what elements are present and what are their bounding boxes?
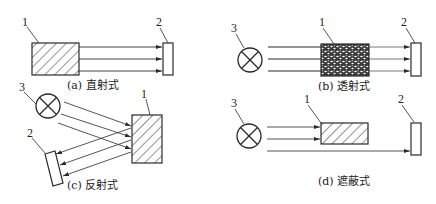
caption-b: (b) 透射式 [318,81,370,93]
label-a-object: 1 [22,16,28,28]
lamp-icon [36,94,60,118]
label-d-detector: 2 [398,93,404,105]
detector [45,151,63,186]
source-object-hatched [32,43,79,75]
caption-d: (d) 遮蔽式 [318,176,370,188]
reflector-hatched [132,115,162,163]
label-d-lamp: 3 [231,97,237,109]
label-b-medium: 1 [319,16,325,28]
label-c-lamp: 3 [19,81,25,93]
caption-c: (c) 反射式 [67,180,118,192]
obstacle-hatched [321,123,368,144]
lamp-icon [238,48,262,72]
detector [411,123,421,155]
caption-a: (a) 直射式 [67,80,119,92]
label-b-detector: 2 [401,16,407,28]
medium-speckled [321,44,369,76]
detector [411,43,421,76]
label-a-detector: 2 [156,16,162,28]
label-c-detector: 2 [27,127,33,139]
panel-b-transmission [236,28,421,76]
panel-c-reflection [24,92,162,186]
panel-a-direct [27,27,173,75]
detector [163,43,173,75]
diagram-canvas [0,0,436,204]
label-c-reflector: 1 [141,88,147,100]
label-d-obstacle: 1 [304,93,310,105]
lamp-icon [237,124,261,148]
panel-d-occlusion [235,105,421,155]
label-b-lamp: 3 [231,22,237,34]
